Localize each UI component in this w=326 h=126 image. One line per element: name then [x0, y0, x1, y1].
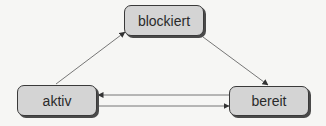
state-node-bereit: bereit [229, 86, 309, 116]
node-label: aktiv [43, 93, 72, 109]
edge-aktiv-to-blockiert [56, 32, 125, 84]
edge-blockiert-to-bereit [203, 37, 268, 85]
node-label: blockiert [138, 13, 190, 29]
state-node-aktiv: aktiv [17, 85, 97, 116]
node-label: bereit [251, 93, 286, 109]
state-node-blockiert: blockiert [124, 5, 204, 36]
